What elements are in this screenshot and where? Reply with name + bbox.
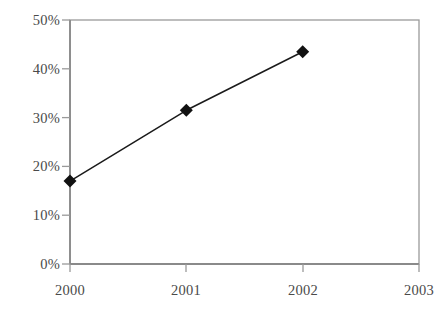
- y-tick-label-0: 0%: [6, 256, 60, 273]
- line-chart: 50% 40% 30% 20% 10% 0% 2000 2001 2002 20…: [0, 0, 447, 312]
- x-tick-label-2000: 2000: [55, 282, 85, 299]
- x-tick-label-2001: 2001: [171, 282, 201, 299]
- x-tick-label-2003: 2003: [404, 282, 434, 299]
- chart-canvas: [0, 0, 447, 312]
- y-tick-label-30: 30%: [6, 109, 60, 126]
- y-tick-label-20: 20%: [6, 158, 60, 175]
- y-tick-label-50: 50%: [6, 12, 60, 29]
- y-tick-label-10: 10%: [6, 207, 60, 224]
- x-tick-marks: [70, 264, 419, 272]
- x-tick-label-2002: 2002: [288, 282, 318, 299]
- y-tick-label-40: 40%: [6, 60, 60, 77]
- y-tick-marks: [62, 20, 70, 264]
- plot-area-border: [70, 20, 419, 264]
